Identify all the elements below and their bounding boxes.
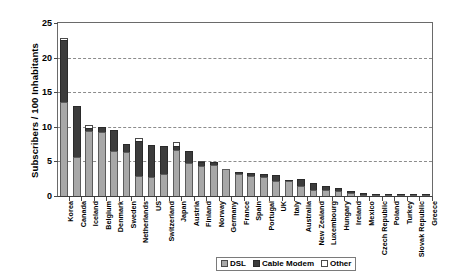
bar-slot — [158, 23, 170, 196]
bar-segment-dsl — [272, 181, 280, 196]
y-tick-label: 5 — [47, 156, 52, 166]
y-tick-label: 10 — [42, 122, 52, 132]
x-label-cell: Canada — [70, 201, 83, 253]
x-label-cell: Germany — [220, 201, 233, 253]
stacked-bar — [148, 145, 156, 196]
x-label-cell: Finland — [195, 201, 208, 253]
bar-slot — [220, 23, 232, 196]
legend-label: Other — [330, 259, 351, 268]
bar-slot — [258, 23, 270, 196]
bar-slot — [420, 23, 432, 196]
bar-segment-dsl — [98, 132, 106, 196]
x-label-cell: Slovak Republic — [408, 201, 421, 253]
bar-segment-cable-modem — [73, 106, 81, 156]
bar-slot — [170, 23, 182, 196]
x-label-cell: Portugal — [258, 201, 271, 253]
bar-slot — [282, 23, 294, 196]
stacked-bar — [322, 186, 330, 196]
x-label-cell: Norway — [207, 201, 220, 253]
x-label-cell: Japan — [170, 201, 183, 253]
bar-segment-dsl — [410, 195, 418, 196]
bar-slot — [270, 23, 282, 196]
stacked-bar — [285, 180, 293, 196]
x-label-cell: Italy — [283, 201, 296, 253]
bar-segment-dsl — [60, 102, 68, 197]
bar-segment-dsl — [385, 195, 393, 196]
y-tick-label: 15 — [42, 87, 52, 97]
stacked-bar — [60, 38, 68, 196]
bar-slot — [295, 23, 307, 196]
x-label-cell: Korea — [57, 201, 70, 253]
stacked-bar — [135, 138, 143, 196]
bar-slot — [208, 23, 220, 196]
cable-modem-swatch-icon — [253, 260, 260, 267]
legend-item: DSL — [221, 259, 246, 268]
bar-slot — [183, 23, 195, 196]
stacked-bar — [310, 183, 318, 196]
x-label-cell: Poland — [383, 201, 396, 253]
bar-segment-dsl — [198, 166, 206, 196]
bar-slot — [357, 23, 369, 196]
bar-segment-dsl — [360, 195, 368, 196]
broadband-subscribers-stacked-bar-chart: Subscribers / 100 Inhabitants 0510152025… — [0, 0, 465, 280]
bar-segment-cable-modem — [160, 146, 168, 174]
stacked-bar — [235, 172, 243, 196]
bar-segment-dsl — [73, 157, 81, 196]
chart-legend: DSLCable ModemOther — [216, 257, 356, 271]
other-swatch-icon — [321, 260, 328, 267]
bar-segment-dsl — [210, 165, 218, 196]
bar-segment-dsl — [160, 174, 168, 196]
bar-slot — [382, 23, 394, 196]
bar-segment-dsl — [110, 151, 118, 197]
stacked-bar — [198, 161, 206, 196]
bar-slot — [195, 23, 207, 196]
bar-slot — [120, 23, 132, 196]
bar-segment-dsl — [148, 177, 156, 196]
stacked-bar — [123, 144, 131, 196]
bars-layer — [58, 23, 432, 196]
bar-segment-dsl — [335, 191, 343, 196]
stacked-bar — [160, 146, 168, 196]
x-label-cell: Luxembourg — [320, 201, 333, 253]
y-tick-label: 20 — [42, 53, 52, 63]
x-label-cell: Denmark — [107, 201, 120, 253]
plot-area: 0510152025 — [57, 22, 433, 197]
x-label-cell: Hungary — [333, 201, 346, 253]
stacked-bar — [210, 162, 218, 196]
x-label-cell: Greece — [420, 201, 433, 253]
stacked-bar — [297, 179, 305, 196]
stacked-bar — [410, 194, 418, 196]
bar-slot — [58, 23, 70, 196]
bar-segment-dsl — [222, 169, 230, 196]
bar-slot — [320, 23, 332, 196]
bar-segment-dsl — [310, 190, 318, 196]
bar-slot — [145, 23, 157, 196]
x-label-cell: Netherlands — [132, 201, 145, 253]
bar-segment-cable-modem — [123, 144, 131, 152]
bar-segment-dsl — [185, 163, 193, 196]
x-axis-labels-group: KoreaCanadaIcelandBelgiumDenmarkSwedenNe… — [57, 201, 433, 253]
legend-item: Cable Modem — [253, 259, 314, 268]
x-axis-label: Greece — [430, 201, 439, 226]
bar-segment-cable-modem — [110, 130, 118, 151]
x-label-cell: Ireland — [345, 201, 358, 253]
stacked-bar — [85, 125, 93, 196]
bar-segment-dsl — [247, 176, 255, 196]
bar-slot — [345, 23, 357, 196]
x-label-cell: UK — [270, 201, 283, 253]
stacked-bar — [360, 193, 368, 196]
bar-slot — [70, 23, 82, 196]
x-label-cell: Mexico — [358, 201, 371, 253]
stacked-bar — [335, 188, 343, 196]
bar-segment-cable-modem — [148, 145, 156, 177]
x-label-cell: Turkey — [395, 201, 408, 253]
stacked-bar — [372, 194, 380, 196]
y-tick-label: 25 — [42, 18, 52, 28]
stacked-bar — [222, 169, 230, 196]
bar-slot — [395, 23, 407, 196]
bar-segment-cable-modem — [135, 141, 143, 176]
bar-slot — [233, 23, 245, 196]
bar-segment-dsl — [85, 131, 93, 196]
dsl-swatch-icon — [221, 260, 228, 267]
bar-segment-dsl — [235, 174, 243, 196]
